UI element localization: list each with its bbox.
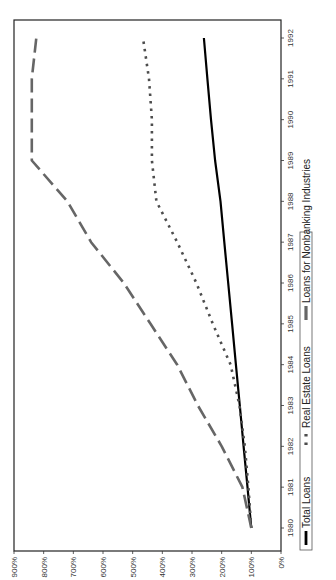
year-tick-label: 1980 xyxy=(286,519,295,537)
year-tick-label: 1990 xyxy=(286,110,295,128)
legend: Total LoansReal Estate LoansLoans for No… xyxy=(300,159,312,550)
value-axis-ticks: 0%100%200%300%400%500%600%700%800%900% xyxy=(10,551,286,577)
value-tick-label: 500% xyxy=(129,557,138,577)
year-tick-label: 1988 xyxy=(286,192,295,210)
year-tick-label: 1985 xyxy=(286,314,295,332)
legend-label: Total Loans xyxy=(301,477,312,528)
legend-label: Real Estate Loans xyxy=(301,346,312,428)
value-tick-label: 900% xyxy=(10,557,19,577)
year-tick-label: 1983 xyxy=(286,396,295,414)
value-tick-label: 600% xyxy=(99,557,108,577)
value-tick-label: 800% xyxy=(40,557,49,577)
value-tick-label: 700% xyxy=(69,557,78,577)
year-tick-label: 1989 xyxy=(286,151,295,169)
value-tick-label: 0% xyxy=(277,557,286,569)
year-tick-label: 1991 xyxy=(286,69,295,87)
year-axis-ticks: 1980198119821983198419851986198719881989… xyxy=(281,29,295,537)
legend-label: Loans for Nonbanking Industries xyxy=(301,159,312,303)
year-tick-label: 1987 xyxy=(286,233,295,251)
year-tick-label: 1984 xyxy=(286,355,295,373)
rotated-line-chart: 0%100%200%300%400%500%600%700%800%900% 1… xyxy=(0,0,336,580)
value-tick-label: 200% xyxy=(218,557,227,577)
plot-area xyxy=(14,20,281,551)
value-tick-label: 300% xyxy=(188,557,197,577)
value-tick-label: 100% xyxy=(247,557,256,577)
year-tick-label: 1982 xyxy=(286,437,295,455)
year-tick-label: 1992 xyxy=(286,29,295,47)
value-tick-label: 400% xyxy=(158,557,167,577)
year-tick-label: 1981 xyxy=(286,478,295,496)
year-tick-label: 1986 xyxy=(286,274,295,292)
